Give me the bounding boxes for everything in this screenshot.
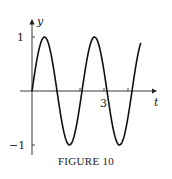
y-axis-label: y bbox=[36, 15, 44, 28]
y-tick-label-1: 1 bbox=[17, 31, 24, 44]
y-tick-label-neg1: −1 bbox=[9, 139, 25, 152]
t-axis-label: t bbox=[154, 96, 159, 109]
figure-caption: FIGURE 10 bbox=[0, 155, 172, 167]
t-tick-label-3: 3 bbox=[100, 97, 107, 110]
sine-plot: y t 1 −1 3 bbox=[0, 0, 172, 155]
